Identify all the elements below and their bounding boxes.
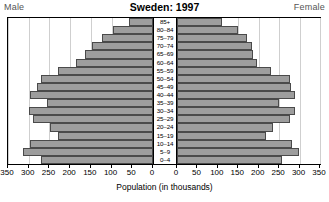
bar-male-10-14 [30,140,153,148]
bar-female-20-24 [177,123,273,131]
gridline [320,18,321,164]
bar-male-70-74 [92,42,153,50]
bar-female-15-19 [177,132,266,140]
age-label-50-54: 50–54 [153,75,177,83]
bar-female-70-74 [177,42,252,50]
age-label-25-29: 25–29 [153,115,177,123]
bar-male-75-79 [102,34,153,42]
bar-male-50-54 [41,75,153,83]
bar-male-40-44 [30,91,153,99]
bar-male-65-69 [85,50,153,58]
age-label-30-34: 30–34 [153,107,177,115]
age-label-45-49: 45–49 [153,83,177,91]
population-pyramid-chart: Male Sweden: 1997 Female 85+80–8475–7970… [0,0,329,202]
bar-female-50-54 [177,75,290,83]
age-label-10-14: 10–14 [153,140,177,148]
bar-male-80-84 [113,26,153,34]
bar-male-15-19 [58,132,153,140]
bar-female-60-64 [177,59,257,67]
bar-male-30-34 [29,107,153,115]
female-side-label: Female [294,2,325,12]
chart-header: Male Sweden: 1997 Female [0,0,329,17]
bar-male-85+ [129,18,153,26]
age-label-35-39: 35–39 [153,99,177,107]
age-label-column: 85+80–8475–7970–7465–6960–6455–5950–5445… [153,18,177,164]
bar-female-25-29 [177,115,290,123]
age-label-40-44: 40–44 [153,91,177,99]
bar-female-85+ [177,18,222,26]
age-label-5-9: 5–9 [153,148,177,156]
age-label-80-84: 80–84 [153,26,177,34]
bar-female-0-4 [177,156,282,164]
bar-female-75-79 [177,34,247,42]
x-tick-label-female-350: 350 [304,168,329,177]
age-label-20-24: 20–24 [153,123,177,131]
chart-title: Sweden: 1997 [0,1,329,13]
age-label-15-19: 15–19 [153,132,177,140]
bar-female-10-14 [177,140,292,148]
bar-female-65-69 [177,50,253,58]
x-axis-title: Population (in thousands) [0,182,329,192]
bar-female-30-34 [177,107,295,115]
bar-male-0-4 [41,156,153,164]
bar-female-40-44 [177,91,295,99]
bar-male-45-49 [37,83,153,91]
x-axis: 3503002502001501005000501001502002503003… [7,165,321,179]
bar-male-5-9 [23,148,154,156]
bar-male-20-24 [50,123,153,131]
age-label-55-59: 55–59 [153,67,177,75]
bar-female-55-59 [177,67,271,75]
age-label-75-79: 75–79 [153,34,177,42]
bar-male-25-29 [33,115,153,123]
plot-area: 85+80–8475–7970–7465–6960–6455–5950–5445… [7,17,321,165]
age-label-60-64: 60–64 [153,59,177,67]
age-label-65-69: 65–69 [153,50,177,58]
age-label-85+: 85+ [153,18,177,26]
age-label-70-74: 70–74 [153,42,177,50]
age-label-0-4: 0–4 [153,156,177,164]
bar-female-35-39 [177,99,279,107]
bar-female-5-9 [177,148,299,156]
bar-male-60-64 [76,59,153,67]
bar-female-45-49 [177,83,291,91]
bar-female-80-84 [177,26,238,34]
bar-male-35-39 [47,99,153,107]
bar-male-55-59 [58,67,153,75]
